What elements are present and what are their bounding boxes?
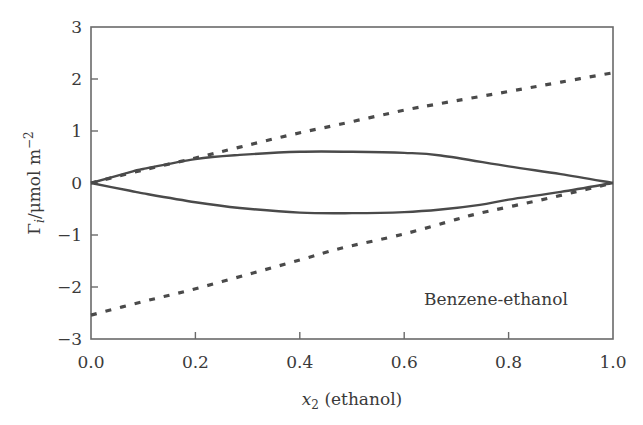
- annotation-label: Benzene-ethanol: [424, 289, 568, 309]
- x-axis-label: x2 (ethanol): [302, 389, 403, 412]
- x-axis-var: x: [302, 389, 312, 409]
- y-tick-label: −3: [57, 329, 82, 349]
- y-tick-label: −2: [57, 277, 82, 297]
- x-tick-label: 1.0: [599, 352, 626, 372]
- y-axis-sym: Γ: [24, 223, 44, 235]
- x-tick-label: 0.6: [391, 352, 418, 372]
- x-tick-label: 0.0: [77, 352, 104, 372]
- y-tick-label: 3: [71, 17, 82, 37]
- y-axis-mid: /μmol m: [24, 149, 44, 219]
- y-tick-label: −1: [57, 225, 82, 245]
- y-tick-label: 1: [71, 121, 82, 141]
- series-upper-solid: [91, 152, 613, 183]
- series-layer: [91, 73, 613, 315]
- chart: 0.00.20.40.60.81.0 3210−1−2−3 Benzene-et…: [0, 0, 643, 425]
- y-tick-label: 2: [71, 69, 82, 89]
- x-axis-rest: (ethanol): [319, 389, 402, 409]
- y-tick-label: 0: [71, 173, 82, 193]
- series-lower-solid: [91, 183, 613, 213]
- x-tick-label: 0.8: [495, 352, 522, 372]
- y-axis-sup: −2: [22, 131, 36, 149]
- x-tick-label: 0.2: [182, 352, 209, 372]
- y-axis-label: Γi/μmol m−2: [22, 131, 47, 234]
- series-upper-dashed: [91, 73, 613, 183]
- x-axis-ticks: 0.00.20.40.60.81.0: [77, 332, 626, 372]
- x-axis-sub: 2: [311, 398, 319, 412]
- x-tick-label: 0.4: [286, 352, 313, 372]
